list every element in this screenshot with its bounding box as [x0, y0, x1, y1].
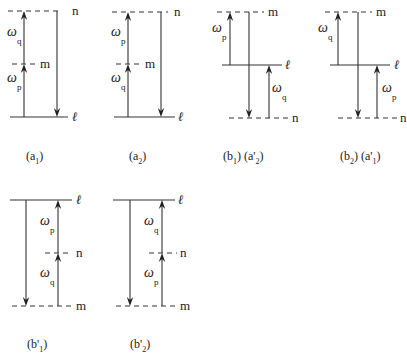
frequency-subscript: p	[392, 92, 397, 102]
energy-level-label: n	[76, 245, 83, 260]
frequency-subscript: q	[50, 277, 55, 287]
panel-b1: mℓnωpωq(b1) (a'2)	[212, 4, 299, 166]
panel-caption-b2: (b2) (a'1)	[340, 149, 380, 166]
frequency-label-omega-q: ω	[144, 213, 154, 228]
energy-level-label: m	[376, 4, 386, 19]
energy-level-label: m	[145, 56, 155, 71]
panel-b2: mℓnωqωp(b2) (a'1)	[318, 4, 407, 166]
energy-level-label: m	[40, 56, 50, 71]
panel-caption-b1prime: (b'1)	[27, 337, 47, 354]
energy-level-diagram-figure: nmℓωqωp(a1)nmℓωpωq(a2)mℓnωpωq(b1) (a'2)m…	[0, 0, 407, 360]
frequency-label-omega-q: ω	[318, 20, 328, 35]
energy-level-label: m	[76, 298, 86, 313]
frequency-label-omega-p: ω	[382, 80, 392, 95]
frequency-label-omega-p: ω	[212, 20, 222, 35]
frequency-subscript: p	[154, 277, 159, 287]
frequency-label-omega-p: ω	[111, 24, 121, 39]
energy-level-label: ℓ	[178, 109, 184, 124]
energy-level-label: ℓ	[178, 192, 184, 207]
frequency-subscript: p	[121, 36, 126, 46]
frequency-subscript: q	[121, 82, 126, 92]
energy-level-label: n	[72, 3, 79, 18]
energy-level-label: ℓ	[72, 109, 78, 124]
energy-level-label: n	[174, 4, 181, 19]
frequency-subscript: p	[222, 32, 227, 42]
frequency-label-omega-q: ω	[7, 24, 17, 39]
energy-level-diagrams-svg: nmℓωqωp(a1)nmℓωpωq(a2)mℓnωpωq(b1) (a'2)m…	[0, 0, 407, 360]
frequency-label-omega-q: ω	[111, 70, 121, 85]
panel-a1: nmℓωqωp(a1)	[7, 3, 79, 166]
energy-level-label: ℓ	[76, 192, 82, 207]
frequency-subscript: p	[50, 225, 55, 235]
energy-level-label: n	[400, 110, 407, 125]
panel-caption-b1: (b1) (a'2)	[223, 149, 263, 166]
frequency-label-omega-p: ω	[7, 70, 17, 85]
panel-caption-b2prime: (b'2)	[130, 337, 150, 354]
panel-a2: nmℓωpωq(a2)	[111, 4, 184, 166]
frequency-subscript: q	[154, 225, 159, 235]
frequency-label-omega-p: ω	[40, 213, 50, 228]
frequency-subscript: q	[328, 32, 333, 42]
energy-level-label: n	[180, 245, 187, 260]
frequency-subscript: p	[17, 82, 22, 92]
panel-b1prime: ℓnmωpωq(b'1)	[10, 192, 86, 354]
energy-level-label: m	[180, 298, 190, 313]
frequency-subscript: q	[282, 92, 287, 102]
frequency-subscript: q	[17, 36, 22, 46]
panel-caption-a2: (a2)	[129, 149, 146, 166]
energy-level-label: ℓ	[285, 57, 291, 72]
frequency-label-omega-q: ω	[40, 265, 50, 280]
energy-level-label: n	[292, 110, 299, 125]
energy-level-label: ℓ	[394, 57, 400, 72]
energy-level-label: m	[268, 4, 278, 19]
frequency-label-omega-q: ω	[272, 80, 282, 95]
frequency-label-omega-p: ω	[144, 265, 154, 280]
panel-caption-a1: (a1)	[26, 149, 43, 166]
panel-b2prime: ℓnmωqωp(b'2)	[113, 192, 190, 354]
